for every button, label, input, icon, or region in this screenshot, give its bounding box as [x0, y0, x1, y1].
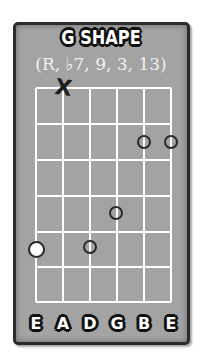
string-label-3: D [80, 312, 100, 336]
string-label-6: E [161, 312, 181, 336]
note-dot-string4-fret3 [109, 206, 123, 220]
note-dot-string3-fret4 [83, 240, 97, 254]
string-labels: E A D G B E [0, 312, 202, 336]
note-dot-string5-fret1 [137, 135, 151, 149]
string-label-4: G [107, 312, 127, 336]
string-label-5: B [134, 312, 154, 336]
string-label-2: A [53, 312, 73, 336]
muted-string-x-icon: X [53, 74, 73, 101]
note-dot-string6-fret1 [164, 135, 178, 149]
fretboard-grid [0, 0, 202, 363]
string-label-1: E [26, 312, 46, 336]
root-note-dot-string1-fret4 [28, 241, 45, 258]
